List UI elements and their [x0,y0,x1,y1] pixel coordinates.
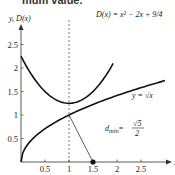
x-tick-label: 0.5 [40,164,51,174]
svg-text:dmin=: dmin= [105,124,124,134]
y-tick-label: 1.5 [7,87,18,97]
chart: 0.511.522.50.511.522.5 y, D(x) x D(x) = … [0,0,175,175]
point-1-5 [90,159,95,164]
annotations [69,18,96,165]
y-tick-label: 2 [14,63,18,73]
curve-dx [21,56,113,103]
x-tick-label: 2.5 [136,164,147,174]
series-label-dx: D(x) = x² − 2x + 9/4 [95,10,163,19]
x-tick-label: 1 [67,164,71,174]
y-axis-label: y, D(x) [8,14,31,23]
curves [21,56,165,162]
x-axis-label: x [173,158,175,167]
distance-segment [69,115,93,162]
y-tick-label: 1 [14,110,18,120]
y-tick-label: 2.5 [7,40,18,50]
x-tick-label: 1.5 [88,164,99,174]
dmin-numerator: √5 [133,119,141,128]
x-tick-label: 2 [115,164,119,174]
y-tick-label: 0.5 [7,134,18,144]
y-axis-arrow [19,24,24,30]
dmin-label: dmin= √5 2 [105,119,144,138]
series-label-sqrt: y = √x [131,91,153,100]
x-axis-arrow [166,160,172,165]
ticks: 0.511.522.50.511.522.5 [7,40,146,175]
dmin-denominator: 2 [135,129,139,138]
